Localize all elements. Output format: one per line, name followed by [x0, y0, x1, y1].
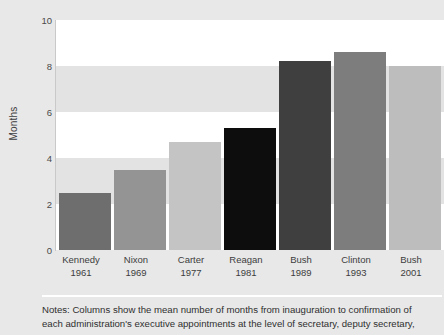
- bar-clinton-1993: [334, 52, 386, 250]
- bar-carter-1977: [169, 142, 221, 250]
- x-label-name: Reagan: [216, 254, 276, 267]
- x-label-clinton-1993: Clinton 1993: [326, 254, 386, 279]
- x-label-kennedy-1961: Kennedy 1961: [51, 254, 111, 279]
- y-axis-ticks: 10 8 6 4 2 0 Months: [0, 0, 52, 335]
- bar-chart-figure: 10 8 6 4 2 0 Months Kennedy 1961 Nixon 1…: [0, 0, 444, 335]
- bar-bush-2001: [389, 66, 441, 250]
- bar-series: [56, 20, 444, 250]
- y-tick-2: 2: [4, 200, 52, 210]
- notes-line-1: Notes: Columns show the mean number of m…: [42, 303, 440, 317]
- footer-divider: [42, 295, 442, 297]
- x-label-bush-2001: Bush 2001: [381, 254, 441, 279]
- x-label-name: Bush: [381, 254, 441, 267]
- x-label-year: 1989: [271, 267, 331, 280]
- y-tick-4: 4: [4, 154, 52, 164]
- bar-kennedy-1961: [59, 193, 111, 251]
- x-label-nixon-1969: Nixon 1969: [106, 254, 166, 279]
- chart-notes: Notes: Columns show the mean number of m…: [42, 303, 440, 330]
- x-label-name: Nixon: [106, 254, 166, 267]
- x-label-year: 1981: [216, 267, 276, 280]
- notes-line-2: each administration's executive appointm…: [42, 317, 440, 331]
- x-label-year: 1969: [106, 267, 166, 280]
- x-label-year: 1961: [51, 267, 111, 280]
- bar-reagan-1981: [224, 128, 276, 250]
- x-label-year: 1993: [326, 267, 386, 280]
- x-label-name: Kennedy: [51, 254, 111, 267]
- bar-bush-1989: [279, 61, 331, 250]
- x-label-year: 2001: [381, 267, 441, 280]
- x-label-name: Bush: [271, 254, 331, 267]
- y-tick-0: 0: [4, 246, 52, 256]
- x-label-name: Carter: [161, 254, 221, 267]
- x-label-bush-1989: Bush 1989: [271, 254, 331, 279]
- x-label-carter-1977: Carter 1977: [161, 254, 221, 279]
- x-label-reagan-1981: Reagan 1981: [216, 254, 276, 279]
- x-label-year: 1977: [161, 267, 221, 280]
- bar-nixon-1969: [114, 170, 166, 251]
- y-tick-8: 8: [4, 62, 52, 72]
- y-axis-title: Months: [8, 94, 19, 154]
- x-label-name: Clinton: [326, 254, 386, 267]
- x-axis-labels: Kennedy 1961 Nixon 1969 Carter 1977 Reag…: [56, 254, 444, 286]
- y-tick-10: 10: [4, 16, 52, 26]
